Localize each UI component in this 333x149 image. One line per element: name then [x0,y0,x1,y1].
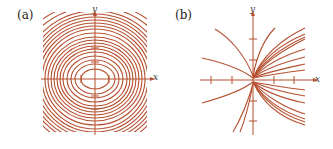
panel-b-plot [165,0,333,149]
panel-b: (b) y x [165,0,333,149]
panel-a: (a) y x [0,0,165,149]
panel-a-plot [0,0,165,149]
